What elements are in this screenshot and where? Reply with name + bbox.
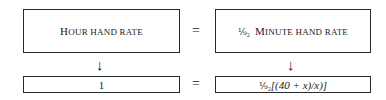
hour-hand-rate-box: HOUR HAND RATE bbox=[23, 9, 180, 53]
minute-value-box: ⅑₂[(40 + x)/x)] bbox=[215, 76, 371, 93]
down-arrow-left: ↓ bbox=[96, 58, 104, 73]
hour-hand-rate-label: HOUR HAND RATE bbox=[60, 25, 143, 37]
hour-value: 1 bbox=[99, 79, 105, 91]
minute-hand-rate-label: ⅑₂ MINUTE HAND RATE bbox=[238, 25, 348, 37]
hour-value-box: 1 bbox=[23, 76, 180, 93]
equals-sign-top: = bbox=[192, 23, 200, 39]
minute-hand-rate-box: ⅑₂ MINUTE HAND RATE bbox=[215, 9, 371, 53]
down-arrow-right: ↓ bbox=[287, 58, 295, 73]
minute-value-expression: ⅑₂[(40 + x)/x)] bbox=[259, 79, 327, 91]
equals-sign-bottom: = bbox=[192, 76, 200, 92]
